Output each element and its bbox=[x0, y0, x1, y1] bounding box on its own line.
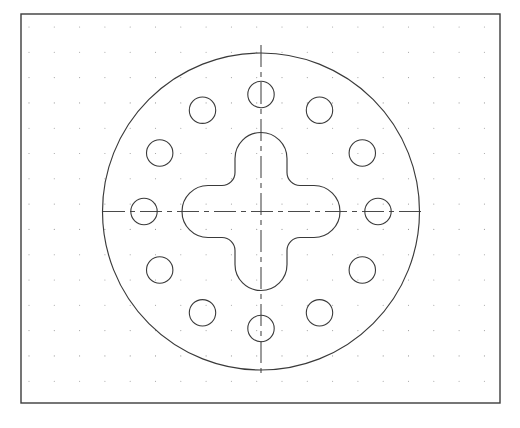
grid-dot bbox=[433, 279, 434, 280]
grid-dot bbox=[383, 153, 384, 154]
grid-dot bbox=[231, 381, 232, 382]
grid-dot bbox=[155, 305, 156, 306]
grid-dot bbox=[281, 204, 282, 205]
grid-dot bbox=[332, 254, 333, 255]
grid-dot bbox=[28, 26, 29, 27]
grid-dot bbox=[357, 330, 358, 331]
grid-dot bbox=[307, 77, 308, 78]
grid-dot bbox=[459, 381, 460, 382]
grid-dot bbox=[104, 52, 105, 53]
grid-dot bbox=[408, 279, 409, 280]
grid-dot bbox=[155, 229, 156, 230]
grid-dot bbox=[130, 254, 131, 255]
grid-dot bbox=[256, 102, 257, 103]
grid-dot bbox=[433, 26, 434, 27]
grid-dot bbox=[104, 229, 105, 230]
grid-dot bbox=[433, 77, 434, 78]
grid-dot bbox=[307, 128, 308, 129]
grid-dot bbox=[54, 381, 55, 382]
grid-dot bbox=[79, 128, 80, 129]
grid-dot bbox=[332, 178, 333, 179]
grid-dot bbox=[408, 178, 409, 179]
grid-dot bbox=[357, 204, 358, 205]
grid-dot bbox=[332, 77, 333, 78]
grid-dot bbox=[231, 305, 232, 306]
grid-dot bbox=[256, 77, 257, 78]
grid-dot bbox=[484, 52, 485, 53]
grid-dot bbox=[130, 102, 131, 103]
grid-dot bbox=[155, 254, 156, 255]
grid-dot bbox=[54, 52, 55, 53]
grid-dot bbox=[332, 330, 333, 331]
grid-dot bbox=[54, 153, 55, 154]
grid-dot bbox=[484, 178, 485, 179]
grid-dot bbox=[79, 153, 80, 154]
grid-dot bbox=[281, 77, 282, 78]
grid-dot bbox=[130, 153, 131, 154]
grid-dot bbox=[79, 279, 80, 280]
grid-dot bbox=[54, 178, 55, 179]
grid-dot bbox=[231, 26, 232, 27]
grid-dot bbox=[54, 77, 55, 78]
grid-dot bbox=[433, 204, 434, 205]
grid-dot bbox=[459, 77, 460, 78]
grid-dot bbox=[206, 381, 207, 382]
grid-dot bbox=[433, 178, 434, 179]
grid-dot bbox=[307, 305, 308, 306]
grid-dot bbox=[54, 330, 55, 331]
grid-dot bbox=[256, 381, 257, 382]
grid-dot bbox=[206, 128, 207, 129]
grid-dot bbox=[180, 26, 181, 27]
grid-dot bbox=[408, 330, 409, 331]
grid-dot bbox=[206, 153, 207, 154]
grid-dot bbox=[79, 102, 80, 103]
grid-dot bbox=[281, 254, 282, 255]
grid-dot bbox=[256, 229, 257, 230]
grid-dot bbox=[433, 102, 434, 103]
grid-dot bbox=[281, 355, 282, 356]
grid-dot bbox=[383, 305, 384, 306]
grid-dot bbox=[180, 279, 181, 280]
grid-dot bbox=[484, 128, 485, 129]
grid-dot bbox=[256, 305, 257, 306]
grid-dot bbox=[281, 178, 282, 179]
grid-dot bbox=[408, 77, 409, 78]
grid-dot bbox=[104, 254, 105, 255]
grid-dot bbox=[79, 178, 80, 179]
grid-dot bbox=[231, 355, 232, 356]
drawing-canvas bbox=[0, 0, 520, 428]
grid-dot bbox=[54, 26, 55, 27]
grid-dot bbox=[206, 26, 207, 27]
grid-dot bbox=[357, 279, 358, 280]
grid-dot bbox=[104, 153, 105, 154]
grid-dot bbox=[206, 330, 207, 331]
grid-dot bbox=[28, 279, 29, 280]
grid-dot bbox=[130, 77, 131, 78]
grid-dot bbox=[332, 305, 333, 306]
grid-dot bbox=[357, 153, 358, 154]
grid-dot bbox=[307, 229, 308, 230]
grid-dot bbox=[79, 305, 80, 306]
grid-dot bbox=[307, 26, 308, 27]
grid-dot bbox=[332, 52, 333, 53]
grid-dot bbox=[28, 128, 29, 129]
grid-dot bbox=[231, 204, 232, 205]
grid-dot bbox=[357, 355, 358, 356]
grid-dot bbox=[332, 153, 333, 154]
grid-dot bbox=[28, 355, 29, 356]
grid-dot bbox=[332, 128, 333, 129]
grid-dot bbox=[383, 102, 384, 103]
grid-dot bbox=[54, 204, 55, 205]
grid-dot bbox=[231, 254, 232, 255]
grid-dot bbox=[130, 355, 131, 356]
grid-dot bbox=[180, 355, 181, 356]
grid-dot bbox=[383, 128, 384, 129]
grid-dot bbox=[256, 178, 257, 179]
grid-dot bbox=[130, 204, 131, 205]
grid-dot bbox=[307, 254, 308, 255]
grid-dot bbox=[281, 305, 282, 306]
grid-dot bbox=[459, 229, 460, 230]
grid-dot bbox=[54, 279, 55, 280]
grid-dot bbox=[28, 178, 29, 179]
grid-dot bbox=[130, 279, 131, 280]
